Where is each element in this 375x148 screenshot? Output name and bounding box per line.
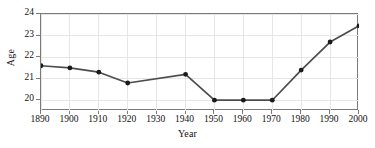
- y-tick-label: 22: [0, 51, 34, 61]
- data-line-age: [41, 26, 359, 100]
- plot-area: [40, 13, 358, 110]
- chart-canvas: [41, 14, 359, 111]
- y-tick-label: 21: [0, 73, 34, 83]
- y-tick-label: 23: [0, 30, 34, 40]
- line-chart-figure: Age Year 2021222324 18901900191019201930…: [0, 0, 375, 148]
- x-tick-label: 2000: [335, 115, 375, 125]
- gridlines: [41, 14, 359, 111]
- x-axis-title: Year: [0, 128, 375, 139]
- y-tick-label: 24: [0, 8, 34, 18]
- y-tick-label: 20: [0, 94, 34, 104]
